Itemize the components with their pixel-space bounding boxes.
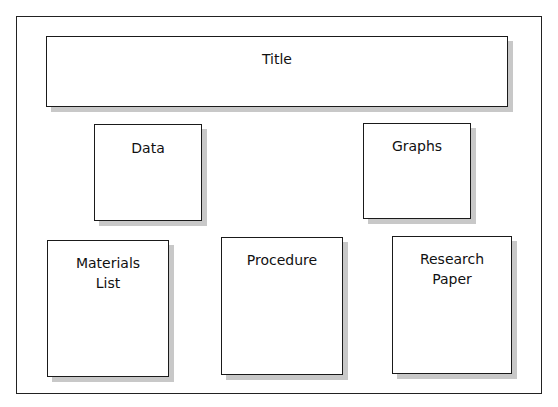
title-label: Title [47,49,507,69]
data-label: Data [95,138,201,158]
research-label-line1: Research [393,249,511,269]
materials-label-line1: Materials [48,253,168,273]
procedure-label: Procedure [222,250,342,270]
graphs-box: Graphs [363,123,471,219]
materials-list-box: Materials List [47,240,169,377]
research-label-line2: Paper [393,269,511,289]
title-box: Title [46,36,508,107]
procedure-box: Procedure [221,237,343,375]
graphs-label: Graphs [364,136,470,156]
research-paper-box: Research Paper [392,236,512,374]
data-box: Data [94,124,202,221]
materials-label-line2: List [48,273,168,293]
